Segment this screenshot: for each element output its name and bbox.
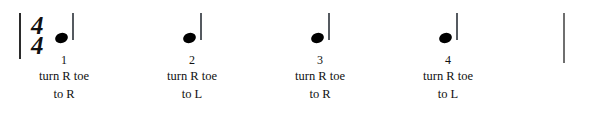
note-head (438, 31, 453, 45)
music-notation-diagram: 4 4 1 turn R toe to R 2 turn R toe to L … (0, 0, 591, 114)
beat-number: 1 (0, 53, 128, 67)
beat-column-2: 2 turn R toe to L (128, 0, 256, 114)
quarter-note-icon (439, 13, 461, 45)
note-head (182, 31, 197, 45)
quarter-note-icon (55, 13, 77, 45)
beat-instruction-line-1: turn R toe (384, 69, 512, 84)
beat-instruction-line-1: turn R toe (256, 69, 384, 84)
beat-instruction-line-2: to L (128, 87, 256, 102)
beat-instruction-line-2: to L (384, 87, 512, 102)
beat-instruction-line-1: turn R toe (128, 69, 256, 84)
note-head (310, 31, 325, 45)
beat-number: 4 (384, 53, 512, 67)
note-stem (200, 13, 202, 40)
beat-number: 2 (128, 53, 256, 67)
beat-column-1: 1 turn R toe to R (0, 0, 128, 114)
beat-number: 3 (256, 53, 384, 67)
quarter-note-icon (183, 13, 205, 45)
barline-right (563, 13, 565, 63)
note-stem (328, 13, 330, 40)
note-stem (456, 13, 458, 40)
beat-instruction-line-1: turn R toe (0, 69, 128, 84)
quarter-note-icon (311, 13, 333, 45)
beat-column-3: 3 turn R toe to R (256, 0, 384, 114)
note-stem (72, 13, 74, 40)
beat-instruction-line-2: to R (256, 87, 384, 102)
beat-column-4: 4 turn R toe to L (384, 0, 512, 114)
note-head (54, 31, 69, 45)
beat-instruction-line-2: to R (0, 87, 128, 102)
